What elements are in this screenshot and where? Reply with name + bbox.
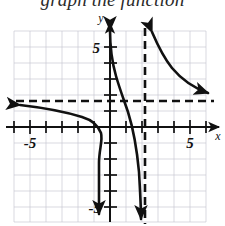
graph-svg: -5 5 5 -5 x y — [0, 0, 225, 226]
y-tick-label-neg-five: -5 — [89, 200, 102, 216]
curve-right-branch — [152, 32, 208, 93]
x-tick-label-neg-five: -5 — [24, 135, 37, 151]
curve-left-branch — [20, 105, 102, 214]
x-tick-label-pos-five: 5 — [186, 135, 194, 151]
figure-rational-function-graph: graph the function — [0, 0, 225, 226]
x-axis-label: x — [214, 129, 221, 143]
coordinate-plane: -5 5 5 -5 x y — [0, 0, 225, 226]
y-tick-label-pos-five: 5 — [93, 40, 101, 56]
y-axis-label: y — [97, 11, 104, 25]
